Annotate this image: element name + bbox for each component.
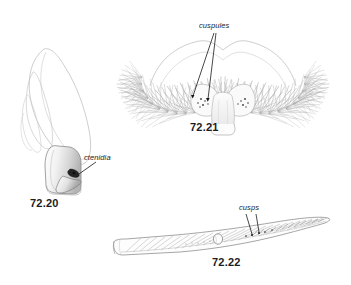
figure-72-20-label: ctenidia — [84, 153, 111, 162]
figure-72-22-label: cusps — [239, 203, 259, 212]
leader-line-ctenidia — [79, 162, 96, 174]
figure-72-22-number: 72.22 — [212, 256, 241, 268]
figure-72-21-artwork — [115, 33, 332, 135]
shaft-oval — [213, 234, 222, 244]
figure-72-21-label: cuspules — [199, 21, 229, 30]
figure-72-20-artwork — [21, 49, 96, 195]
illustration-plate: ctenidia 72.20 cuspules 72.21 cusps 72.2… — [0, 0, 351, 285]
plate-artwork — [0, 0, 351, 285]
figure-72-20-number: 72.20 — [30, 197, 59, 209]
figure-72-22-artwork — [113, 214, 329, 255]
figure-72-21-number: 72.21 — [190, 121, 219, 133]
